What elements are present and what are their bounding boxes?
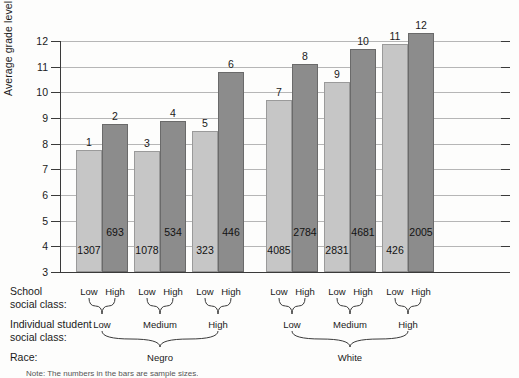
brace (292, 331, 408, 347)
brace (102, 331, 218, 347)
brace (337, 298, 363, 314)
brace (395, 298, 421, 314)
brace (205, 298, 231, 314)
brace (147, 298, 173, 314)
chart-footnote: Note: The numbers in the bars are sample… (26, 369, 198, 378)
brace (279, 298, 305, 314)
brace (89, 298, 115, 314)
